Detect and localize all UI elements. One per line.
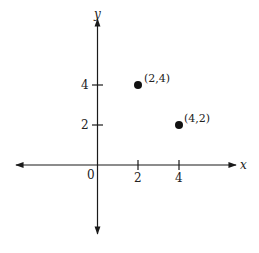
x-tick-label-4: 4 xyxy=(175,171,183,185)
y-tick-label-2: 2 xyxy=(81,118,89,132)
coordinate-plane: y x 0 2 4 4 2 (2,4) (4,2) xyxy=(0,0,259,253)
y-axis-label: y xyxy=(93,7,101,21)
data-point-4-2 xyxy=(175,121,183,129)
x-tick-label-2: 2 xyxy=(134,171,142,185)
x-axis-label: x xyxy=(240,158,247,172)
origin-label: 0 xyxy=(87,168,95,182)
y-tick-label-4: 4 xyxy=(81,78,89,92)
data-point-2-4 xyxy=(134,81,142,89)
point-label-4-2: (4,2) xyxy=(184,112,210,125)
point-label-2-4: (2,4) xyxy=(144,72,170,85)
